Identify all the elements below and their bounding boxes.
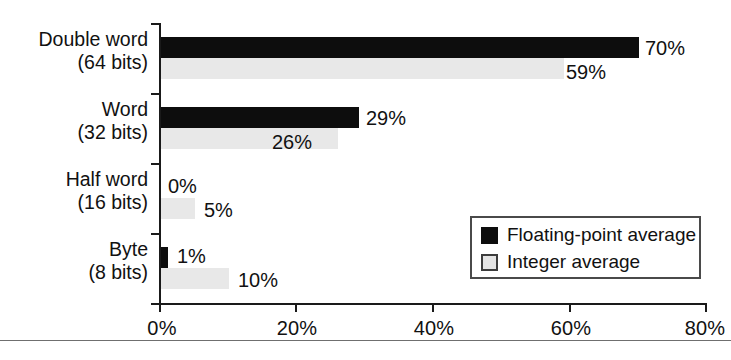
bar-floating-point-double-word bbox=[161, 37, 639, 58]
category-label-line2: (64 bits) bbox=[39, 51, 148, 74]
value-tick bbox=[432, 303, 434, 312]
bar-integer-half-word bbox=[161, 198, 195, 219]
chart-figure: 0% 20% 40% 60% 80% Double word (64 bits)… bbox=[0, 0, 731, 360]
value-tick bbox=[569, 303, 571, 312]
value-tick bbox=[705, 303, 707, 312]
category-tick bbox=[151, 233, 160, 235]
legend-label-integer: Integer average bbox=[507, 251, 640, 273]
category-label-line2: (32 bits) bbox=[78, 121, 148, 144]
category-label-line1: Half word bbox=[66, 168, 148, 191]
category-label-half-word: Half word (16 bits) bbox=[66, 168, 148, 214]
value-tick bbox=[295, 303, 297, 312]
bar-value-floating-point-byte: 1% bbox=[177, 245, 206, 268]
category-label-line2: (16 bits) bbox=[66, 191, 148, 214]
category-tick bbox=[151, 93, 160, 95]
x-tick-label-2: 40% bbox=[414, 317, 455, 340]
bar-value-floating-point-word: 29% bbox=[366, 107, 406, 130]
bar-floating-point-byte bbox=[161, 247, 168, 268]
bar-value-integer-half-word: 5% bbox=[204, 199, 233, 222]
legend-item-integer-average: Integer average bbox=[481, 249, 640, 275]
legend-label-floating-point: Floating-point average bbox=[507, 224, 696, 246]
bar-value-integer-byte: 10% bbox=[238, 269, 278, 292]
category-label-byte: Byte (8 bits) bbox=[88, 238, 148, 284]
category-tick bbox=[151, 163, 160, 165]
legend-swatch-icon-integer bbox=[481, 254, 498, 271]
page-divider-rule bbox=[0, 340, 731, 341]
chart-legend: Floating-point average Integer average bbox=[470, 216, 701, 279]
category-label-line2: (8 bits) bbox=[88, 261, 148, 284]
bar-value-integer-double-word: 59% bbox=[566, 61, 606, 84]
x-tick-label-0: 0% bbox=[147, 317, 176, 340]
bar-integer-byte bbox=[161, 268, 229, 289]
legend-item-floating-point-average: Floating-point average bbox=[481, 222, 696, 248]
bar-floating-point-word bbox=[161, 107, 359, 128]
category-label-line1: Byte bbox=[88, 238, 148, 261]
category-label-line1: Word bbox=[78, 98, 148, 121]
value-tick bbox=[159, 303, 161, 312]
category-tick bbox=[151, 23, 160, 25]
category-label-line1: Double word bbox=[39, 28, 148, 51]
x-tick-label-1: 20% bbox=[277, 317, 318, 340]
x-tick-label-3: 60% bbox=[551, 317, 592, 340]
legend-swatch-icon-floating-point bbox=[481, 227, 498, 244]
bar-value-floating-point-half-word: 0% bbox=[168, 175, 197, 198]
category-label-word: Word (32 bits) bbox=[78, 98, 148, 144]
bar-value-floating-point-double-word: 70% bbox=[645, 37, 685, 60]
category-label-double-word: Double word (64 bits) bbox=[39, 28, 148, 74]
bar-value-integer-word: 26% bbox=[272, 131, 312, 154]
x-tick-label-4: 80% bbox=[685, 317, 726, 340]
bar-integer-double-word bbox=[161, 58, 564, 79]
plot-area: 0% 20% 40% 60% 80% Double word (64 bits)… bbox=[0, 0, 731, 360]
